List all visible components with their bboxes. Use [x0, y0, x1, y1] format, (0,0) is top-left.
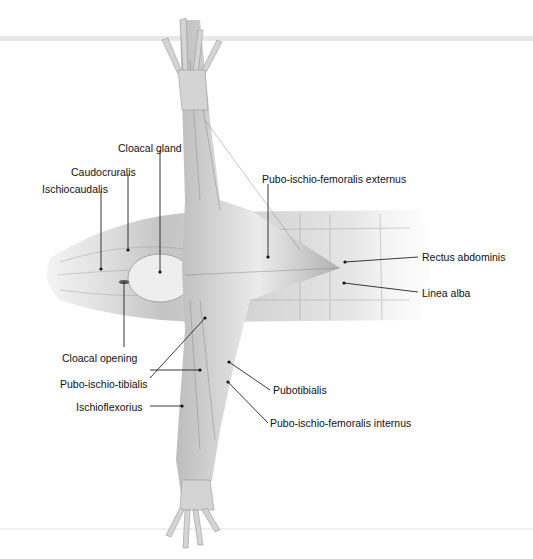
label-linea-alba: Linea alba: [422, 287, 470, 299]
foot-bottom: [166, 480, 220, 548]
label-pubotibialis: Pubotibialis: [273, 384, 327, 396]
label-pubo-ischio-tibialis: Pubo-ischio-tibialis: [60, 378, 148, 390]
label-ischioflexorius: Ischioflexorius: [76, 401, 143, 413]
label-cloacal-gland: Cloacal gland: [118, 142, 182, 154]
anatomy-illustration: [0, 0, 533, 559]
label-pubo-ischio-femoralis-internus: Pubo-ischio-femoralis internus: [270, 417, 411, 429]
label-ischiocaudalis: Ischiocaudalis: [42, 183, 108, 195]
label-caudocruralis: Caudocruralis: [71, 166, 136, 178]
label-pubo-ischio-femoralis-externus: Pubo-ischio-femoralis externus: [262, 173, 406, 185]
page-rule: [0, 36, 533, 41]
label-cloacal-opening: Cloacal opening: [62, 352, 137, 364]
anatomy-diagram: Cloacal gland Caudocruralis Ischiocaudal…: [0, 0, 533, 559]
label-rectus-abdominis: Rectus abdominis: [422, 251, 505, 263]
